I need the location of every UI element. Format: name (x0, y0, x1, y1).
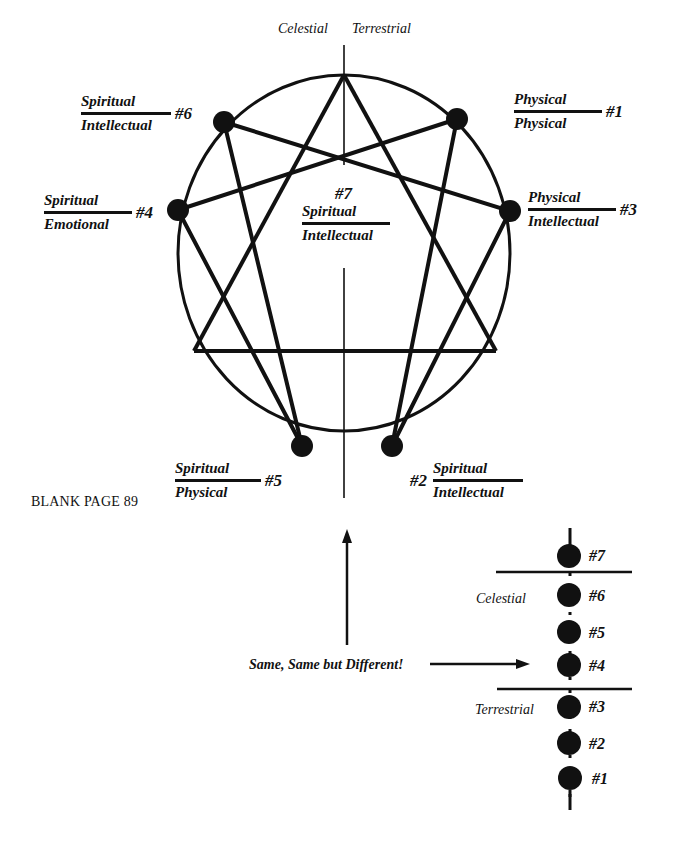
scale-level-6: #6 (589, 587, 605, 605)
node-4-dot (167, 199, 189, 221)
scale-celestial-label: Celestial (476, 591, 526, 607)
label-2-number: #2 (410, 471, 427, 491)
label-2-bottom: Intellectual (433, 482, 523, 501)
terrestrial-top-label: Terrestrial (352, 21, 411, 37)
level-5-dot (557, 620, 581, 644)
label-4-number: #4 (136, 203, 153, 223)
label-point-7: Spiritual Intellectual (302, 203, 390, 244)
scale-terrestrial-label: Terrestrial (475, 702, 534, 718)
label-point-1: Physical Physical #1 (514, 91, 623, 132)
right-arrow (430, 659, 530, 669)
page-note: BLANK PAGE 89 (31, 494, 138, 510)
label-point-3: Physical Intellectual #3 (528, 189, 637, 230)
label-2-top: Spiritual (433, 460, 523, 482)
label-3-bottom: Intellectual (528, 211, 616, 230)
label-3-number: #3 (620, 200, 637, 220)
label-7-number: #7 (335, 185, 352, 203)
level-2-dot (557, 731, 581, 755)
scale-level-5: #5 (589, 624, 605, 642)
label-3-top: Physical (528, 189, 616, 211)
label-point-4: Spiritual Emotional #4 (44, 192, 153, 233)
node-1-dot (446, 108, 468, 130)
label-1-top: Physical (514, 91, 602, 113)
node-2-dot (381, 435, 403, 457)
label-6-bottom: Intellectual (81, 115, 171, 134)
level-3-dot (557, 695, 581, 719)
scale-level-7: #7 (589, 547, 605, 565)
label-6-number: #6 (175, 104, 192, 124)
label-point-5: Spiritual Physical #5 (175, 460, 282, 501)
scale-level-4: #4 (589, 657, 605, 675)
scale-level-3: #3 (589, 698, 605, 716)
level-scale (496, 528, 632, 810)
level-1-dot (558, 766, 582, 790)
node-6-dot (213, 111, 235, 133)
label-1-number: #1 (606, 102, 623, 122)
celestial-top-label: Celestial (278, 21, 328, 37)
label-6-top: Spiritual (81, 93, 171, 115)
level-6-dot (557, 583, 581, 607)
level-4-dot (557, 653, 581, 677)
label-7-top: Spiritual (302, 203, 390, 225)
label-5-bottom: Physical (175, 482, 261, 501)
label-5-top: Spiritual (175, 460, 261, 482)
scale-level-2: #2 (589, 735, 605, 753)
label-point-2: #2 Spiritual Intellectual (410, 460, 523, 501)
up-arrow (342, 529, 352, 645)
label-5-number: #5 (265, 471, 282, 491)
node-3-dot (499, 200, 521, 222)
label-7-bottom: Intellectual (302, 225, 390, 244)
node-5-dot (291, 435, 313, 457)
label-1-bottom: Physical (514, 113, 602, 132)
level-7-dot (557, 544, 581, 568)
label-4-top: Spiritual (44, 192, 132, 214)
scale-level-1: #1 (592, 770, 608, 788)
label-4-bottom: Emotional (44, 214, 132, 233)
arrow-caption: Same, Same but Different! (249, 656, 404, 674)
label-point-6: Spiritual Intellectual #6 (81, 93, 192, 134)
